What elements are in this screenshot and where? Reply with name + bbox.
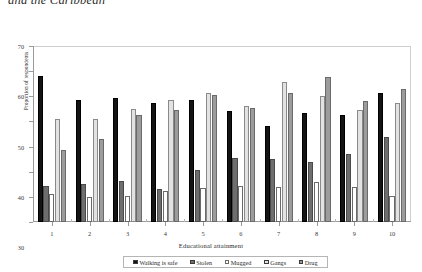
x-tick-mark (392, 222, 393, 226)
legend-item[interactable]: Stolen (190, 259, 212, 266)
bar-mugged (389, 196, 394, 222)
x-tick-mark (241, 222, 242, 226)
bar-gangs (357, 110, 362, 222)
x-minor-tick (335, 219, 336, 222)
x-tick-mark (354, 222, 355, 226)
y-axis-title: Proportion of respondents (23, 11, 29, 151)
bar-drug (61, 150, 66, 222)
x-tick-label: 1 (50, 230, 53, 237)
legend-item[interactable]: Gangs (264, 259, 286, 266)
y-tick-label: 70 (18, 43, 24, 50)
bar-walking-is-safe (265, 126, 270, 222)
legend-item[interactable]: Drug (299, 259, 318, 266)
bar-stolen (157, 189, 162, 222)
bar-group (302, 46, 330, 222)
legend-item[interactable]: Walking is safe (133, 259, 177, 266)
bar-drug (363, 101, 368, 222)
bar-walking-is-safe (76, 100, 81, 222)
x-minor-tick (109, 219, 110, 222)
chart-figure: and the Caribbean Proportion of responde… (0, 0, 422, 272)
x-tick-mark (317, 222, 318, 226)
bar-walking-is-safe (151, 103, 156, 222)
x-tick-mark (90, 222, 91, 226)
bar-mugged (276, 187, 281, 222)
bar-drug (401, 89, 406, 222)
bar-gangs (320, 96, 325, 222)
bar-mugged (125, 196, 130, 222)
bar-drug (288, 93, 293, 222)
bar-stolen (195, 170, 200, 222)
y-tick-label: 50 (18, 143, 24, 150)
x-tick-label: 8 (315, 230, 318, 237)
x-tick-label: 9 (353, 230, 356, 237)
x-axis-title: Educational attainment (0, 242, 422, 249)
bar-mugged (238, 186, 243, 222)
bar-stolen (81, 184, 86, 222)
bar-group (189, 46, 217, 222)
y-axis-line (33, 46, 34, 222)
legend-label: Stolen (196, 259, 212, 266)
bar-stolen (119, 181, 124, 222)
legend-swatch-icon (190, 260, 195, 265)
legend-swatch-icon (299, 260, 304, 265)
x-tick-mark (165, 222, 166, 226)
bar-gangs (282, 82, 287, 222)
bar-group (151, 46, 179, 222)
bar-stolen (346, 154, 351, 222)
bar-stolen (384, 137, 389, 222)
bar-gangs (168, 100, 173, 222)
bar-drug (212, 95, 217, 222)
x-tick-mark (128, 222, 129, 226)
bar-walking-is-safe (189, 100, 194, 222)
bar-group (113, 46, 141, 222)
bar-group (265, 46, 293, 222)
bar-drug (136, 115, 141, 222)
x-tick-label: 10 (389, 230, 395, 237)
y-tick-mark: 50 (29, 96, 33, 97)
legend-item[interactable]: Mugged (225, 259, 252, 266)
bar-walking-is-safe (38, 76, 43, 222)
legend-label: Walking is safe (139, 259, 177, 266)
bar-stolen (232, 158, 237, 222)
bar-gangs (206, 93, 211, 222)
y-tick-label: 60 (18, 93, 24, 100)
y-tick-mark: 10 (29, 197, 33, 198)
document-title-fragment: and the Caribbean (8, 0, 105, 8)
bar-gangs (55, 119, 60, 222)
x-tick-label: 2 (88, 230, 91, 237)
bar-walking-is-safe (340, 115, 345, 222)
legend-label: Drug (305, 259, 318, 266)
x-tick-label: 3 (126, 230, 129, 237)
bar-gangs (244, 106, 249, 222)
bar-gangs (131, 109, 136, 222)
x-minor-tick (146, 219, 147, 222)
x-minor-tick (184, 219, 185, 222)
x-tick-mark (279, 222, 280, 226)
x-tick-mark (52, 222, 53, 226)
bar-drug (325, 77, 330, 222)
x-minor-tick (222, 219, 223, 222)
bar-drug (250, 108, 255, 222)
bar-mugged (87, 197, 92, 222)
bar-group (340, 46, 368, 222)
bar-gangs (93, 119, 98, 222)
x-tick-label: 4 (164, 230, 167, 237)
bar-stolen (270, 159, 275, 222)
legend-swatch-icon (133, 260, 138, 265)
x-tick-label: 5 (201, 230, 204, 237)
plot-area: 010203040506070 12345678910 (33, 46, 411, 222)
y-tick-mark: 20 (29, 172, 33, 173)
legend-label: Mugged (231, 259, 252, 266)
bar-group (38, 46, 66, 222)
y-tick-label: 40 (18, 193, 24, 200)
bar-mugged (163, 191, 168, 222)
bar-stolen (43, 186, 48, 222)
legend-label: Gangs (270, 259, 286, 266)
y-tick-mark: 60 (29, 71, 33, 72)
legend-swatch-icon (225, 260, 230, 265)
bar-mugged (49, 194, 54, 222)
x-tick-label: 6 (239, 230, 242, 237)
bar-group (227, 46, 255, 222)
bar-drug (99, 139, 104, 222)
bar-mugged (200, 188, 205, 222)
